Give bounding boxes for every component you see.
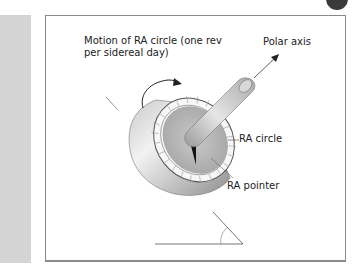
motion-label-line1: Motion of RA circle (one rev bbox=[84, 35, 222, 47]
axis-tick-mark bbox=[106, 97, 118, 110]
motion-label: Motion of RA circle (one rev per siderea… bbox=[84, 35, 222, 59]
ra-circle-label: RA circle bbox=[239, 133, 282, 145]
angle-arc bbox=[221, 228, 227, 244]
motion-label-line2: per sidereal day) bbox=[84, 47, 222, 59]
ra-pointer-label: RA pointer bbox=[227, 180, 279, 192]
polar-axis-arrow bbox=[254, 57, 276, 78]
motion-arrowhead-icon bbox=[173, 78, 182, 86]
angle-line bbox=[213, 212, 243, 244]
polar-axis-label: Polar axis bbox=[263, 36, 311, 48]
